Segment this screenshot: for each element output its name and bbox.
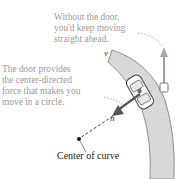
caption-door-force: The door provides the center-directed fo… — [2, 64, 80, 108]
caption-line: move in a circle. — [2, 97, 80, 108]
center-point — [77, 137, 81, 141]
straight-arrow-head — [160, 47, 168, 57]
normal-force-label: n⃗ — [110, 113, 122, 123]
center-of-curve-label: Center of curve — [57, 150, 119, 161]
pointer-line-left — [104, 97, 124, 106]
radius-dashed-line — [80, 116, 113, 138]
caption-line: force that makes you — [2, 86, 80, 97]
caption-line: the center-directed — [2, 75, 80, 86]
pointer-line-top — [138, 33, 162, 46]
caption-line: Without the door, — [54, 12, 125, 23]
caption-line: straight ahead. — [54, 34, 125, 45]
caption-line: The door provides — [2, 64, 80, 75]
caption-without-door: Without the door, you'd keep moving stra… — [54, 12, 125, 45]
straight-car-icon — [160, 83, 168, 92]
velocity-label: v⃗ — [104, 48, 115, 58]
caption-line: you'd keep moving — [54, 23, 125, 34]
